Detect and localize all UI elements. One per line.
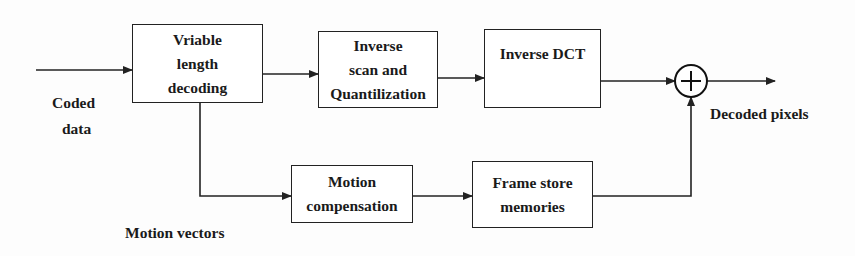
motion-vectors-line [200,103,291,196]
block-text-line: Motion [328,170,376,194]
mpeg-decoder-diagram: Vriable length decoding Inverse scan and… [0,0,855,256]
block-text-line: decoding [168,76,227,100]
block-text-line: Quantilization [330,82,426,106]
block-text-line: Vriable [173,28,222,52]
motion-vectors-label: Motion vectors [125,224,224,242]
motion-compensation-block: Motion compensation [291,165,413,223]
label-line: Coded [52,90,95,116]
coded-data-label: Coded data [52,90,95,142]
block-text-line: scan and [349,58,407,82]
framestore-to-adder-line [593,97,691,196]
block-text-line: memories [500,195,565,219]
inverse-scan-quantization-block: Inverse scan and Quantilization [318,31,438,108]
block-text-line: length [177,52,218,76]
block-text-line: compensation [306,194,397,218]
decoded-pixels-label: Decoded pixels [710,105,809,123]
block-text-line: Frame store [492,171,572,195]
label-line: data [52,116,95,142]
block-text-line: Inverse DCT [500,42,586,66]
inverse-dct-block: Inverse DCT [484,29,601,108]
frame-store-memories-block: Frame store memories [472,161,593,228]
block-text-line: Inverse [353,34,402,58]
variable-length-decoding-block: Vriable length decoding [132,24,263,103]
adder-plus-icon [675,65,707,97]
